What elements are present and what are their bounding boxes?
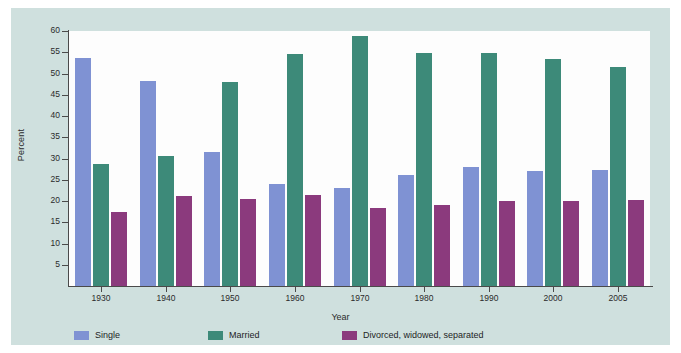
x-tick-mark [553,287,554,292]
x-tick-mark [166,287,167,292]
bar-1950-married [222,82,238,286]
y-tick-label-text: 50 [24,69,60,78]
bar-2000-divorced [563,201,579,286]
chart-figure: 51015202530354045505560 Percent 19301940… [0,0,681,353]
y-tick-label-text: 20 [24,196,60,205]
legend-item-single: Single [74,325,120,339]
x-tick-label: 1960 [272,294,318,303]
x-tick-label: 2005 [595,294,641,303]
legend-label-divorced: Divorced, widowed, separated [363,330,484,340]
y-tick-mark [62,265,68,266]
legend-item-married: Married [208,325,260,339]
y-tick-label: 50 [22,69,60,79]
bar-1990-divorced [499,201,515,286]
x-tick-label: 1940 [143,294,189,303]
x-tick-mark [101,287,102,292]
bar-1990-married [481,53,497,286]
bars-layer [69,31,650,286]
x-tick-label: 1980 [401,294,447,303]
x-tick-mark [360,287,361,292]
y-tick-mark [62,74,68,75]
y-tick-mark [62,52,68,53]
bar-1950-divorced [240,199,256,286]
bar-2005-single [592,170,608,286]
bar-1940-divorced [176,196,192,286]
y-tick-label-text: 25 [24,175,60,184]
bar-1930-single [75,58,91,286]
legend-swatch-single [74,331,89,340]
x-tick-label: 1950 [207,294,253,303]
y-tick-label: 5 [22,260,60,270]
bar-1960-married [287,54,303,286]
legend-item-divorced: Divorced, widowed, separated [342,325,484,339]
y-tick-label-text: 5 [24,260,60,269]
bar-1970-married [352,36,368,286]
y-tick-label: 55 [22,47,60,57]
bar-1970-single [334,188,350,286]
y-tick-label: 15 [22,217,60,227]
y-tick-mark [62,222,68,223]
y-tick-label-text: 40 [24,111,60,120]
y-tick-label-text: 60 [24,26,60,35]
bar-1990-single [463,167,479,286]
x-tick-label: 1990 [466,294,512,303]
y-tick-label-text: 55 [24,47,60,56]
y-tick-label: 45 [22,90,60,100]
y-tick-label-text: 15 [24,217,60,226]
y-tick-label: 30 [22,154,60,164]
y-tick-label: 35 [22,132,60,142]
y-tick-label: 25 [22,175,60,185]
y-tick-mark [62,180,68,181]
bar-1940-married [158,156,174,286]
bar-1940-single [140,81,156,286]
legend-swatch-divorced [342,331,357,340]
y-tick-label-text: 45 [24,90,60,99]
y-tick-mark [62,137,68,138]
bar-1950-single [204,152,220,286]
y-tick-label: 60 [22,26,60,36]
y-tick-mark [62,244,68,245]
x-tick-label: 2000 [530,294,576,303]
y-tick-mark [62,116,68,117]
bar-1960-divorced [305,195,321,286]
x-axis-title: Year [0,312,681,322]
bar-2005-married [610,67,626,286]
x-tick-mark [618,287,619,292]
x-tick-mark [295,287,296,292]
y-axis-title: Percent [16,115,26,175]
bar-1980-married [416,53,432,286]
y-tick-label: 10 [22,239,60,249]
y-tick-label: 40 [22,111,60,121]
y-tick-label: 20 [22,196,60,206]
y-tick-label-text: 35 [24,132,60,141]
y-tick-mark [62,159,68,160]
bar-1980-divorced [434,205,450,286]
x-tick-label: 1970 [337,294,383,303]
bar-2000-single [527,171,543,286]
bar-2000-married [545,59,561,286]
x-tick-mark [489,287,490,292]
y-tick-label-text: 30 [24,154,60,163]
x-tick-label: 1930 [78,294,124,303]
legend-label-single: Single [95,330,120,340]
bar-1960-single [269,184,285,286]
y-tick-label-text: 10 [24,239,60,248]
bar-1970-divorced [370,208,386,286]
bar-1930-married [93,164,109,286]
bar-1980-single [398,175,414,286]
y-tick-mark [62,95,68,96]
bar-1930-divorced [111,212,127,286]
bar-2005-divorced [628,200,644,286]
y-tick-mark [62,31,68,32]
y-tick-mark [62,201,68,202]
legend-label-married: Married [229,330,260,340]
x-tick-mark [424,287,425,292]
x-tick-mark [230,287,231,292]
legend-swatch-married [208,331,223,340]
